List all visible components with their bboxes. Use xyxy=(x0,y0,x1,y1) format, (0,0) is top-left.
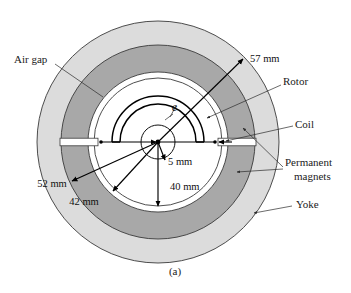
figure-caption: (a) xyxy=(169,265,182,278)
dim-label-57mm: 57 mm xyxy=(250,53,279,64)
dim-label-40mm: 40 mm xyxy=(170,181,199,192)
label-coil: Coil xyxy=(295,118,314,130)
dim-label-5mm: 5 mm xyxy=(168,156,192,167)
label-permanent-magnets-line1: Permanent xyxy=(285,156,332,168)
symbol-thickness-e: e xyxy=(172,101,177,113)
center-dot xyxy=(156,140,161,145)
machine-cross-section-diagram: Air gap Rotor Coil Permanent magnets Yok… xyxy=(0,0,351,293)
figure-container: Air gap Rotor Coil Permanent magnets Yok… xyxy=(0,0,351,293)
coil-slot-left xyxy=(60,138,98,146)
dim-label-52mm: 52 mm xyxy=(37,178,66,189)
label-air-gap: Air gap xyxy=(14,53,48,65)
label-rotor: Rotor xyxy=(283,75,308,87)
dim-label-42mm: 42 mm xyxy=(69,196,98,207)
label-permanent-magnets-line2: magnets xyxy=(294,170,331,182)
label-yoke: Yoke xyxy=(296,198,319,210)
